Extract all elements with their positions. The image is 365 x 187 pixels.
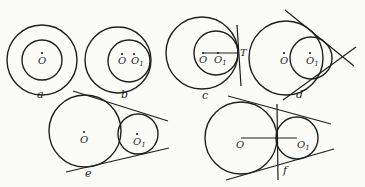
center-point-o — [41, 52, 43, 54]
upper-tangent — [228, 96, 331, 124]
label-o1: O1 — [133, 136, 146, 149]
figure-a: O a — [7, 25, 77, 101]
lower-tangent — [283, 47, 356, 100]
label-t: T — [240, 47, 248, 58]
figure-c: O O1 T c — [166, 17, 248, 102]
label-o: O — [80, 134, 88, 145]
caption-a: a — [37, 88, 44, 101]
label-o: O — [280, 55, 288, 66]
label-o: O — [38, 55, 46, 66]
caption-f: f — [282, 164, 289, 177]
label-o1: O1 — [131, 55, 144, 68]
label-o1: O1 — [214, 54, 227, 67]
figure-f: O O1 f — [205, 96, 334, 180]
caption-e: e — [85, 167, 92, 180]
label-o1: O1 — [306, 55, 319, 68]
inner-circle — [108, 40, 150, 82]
caption-d: d — [296, 88, 303, 101]
label-o1: O1 — [297, 139, 310, 152]
internal-tangent — [277, 104, 278, 180]
caption-b: b — [121, 88, 128, 101]
figure-b: O O1 b — [85, 27, 151, 101]
center-point-o1 — [309, 52, 311, 54]
figure-e: O O1 e — [49, 91, 169, 180]
center-point-o — [283, 52, 285, 54]
center-point-o — [83, 131, 85, 133]
circle-relations-diagram: O a O O1 b O O1 T c O O1 d — [0, 0, 365, 187]
label-o: O — [236, 139, 244, 150]
large-circle — [49, 95, 121, 167]
upper-tangent — [285, 10, 354, 66]
lower-tangent — [66, 148, 169, 172]
caption-c: c — [202, 89, 208, 102]
center-point-o1 — [136, 133, 138, 135]
label-o: O — [199, 54, 207, 65]
lower-tangent — [226, 149, 334, 180]
figure-d: O O1 d — [249, 10, 356, 101]
label-o: O — [118, 55, 126, 66]
